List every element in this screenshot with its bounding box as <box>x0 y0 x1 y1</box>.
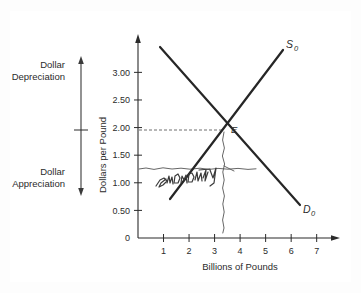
arrow-head-down <box>78 188 84 196</box>
range-marker-axis <box>74 56 88 196</box>
demand-curve-label-group: D 0 <box>303 203 316 218</box>
y-axis-tick-label: 2.50 <box>112 95 130 105</box>
demand-curve-subscript: 0 <box>311 209 316 218</box>
label-dollar-depreciation-line1: Dollar <box>40 59 65 70</box>
equilibrium-point-label: E <box>231 124 238 135</box>
label-dollar-appreciation-line2: Appreciation <box>12 178 65 189</box>
label-dollar-appreciation-line1: Dollar <box>40 166 65 177</box>
x-axis-tick-label: 4 <box>238 246 243 256</box>
y-axis-tick-label: 0.50 <box>112 206 130 216</box>
y-axis-tick-label: 2.00 <box>112 123 130 133</box>
figure-root: Dollar Depreciation Dollar Appreciation … <box>0 0 361 293</box>
x-axis-tick-label: 7 <box>314 246 319 256</box>
x-axis-tick-label: 1 <box>161 246 166 256</box>
x-axis-arrow-head <box>331 235 340 241</box>
label-dollar-depreciation-line2: Depreciation <box>12 71 65 82</box>
y-axis-tick-label: 1.00 <box>112 178 130 188</box>
supply-curve-label: S <box>286 38 293 50</box>
supply-curve-label-group: S 0 <box>286 38 299 53</box>
x-axis-tick-label: 2 <box>187 246 192 256</box>
demand-curve-label: D <box>303 203 311 215</box>
guide-shortage-price <box>139 168 256 170</box>
supply-demand-chart: Dollar Depreciation Dollar Appreciation … <box>0 0 361 293</box>
supply-curve-subscript: 0 <box>294 44 299 53</box>
x-axis-ticks: 1234567 <box>161 234 319 256</box>
guide-lines <box>139 130 256 233</box>
x-axis-tick-label: 5 <box>263 246 268 256</box>
supply-curve <box>170 50 283 199</box>
x-axis-title: Billions of Pounds <box>202 261 278 272</box>
handwritten-shortage-annotation <box>156 168 216 187</box>
y-axis-tick-label: 0 <box>125 233 130 243</box>
guide-equilibrium-quantity <box>222 132 224 233</box>
arrow-head-up <box>78 56 84 64</box>
y-axis-tick-label: 1.50 <box>112 150 130 160</box>
x-axis-tick-label: 3 <box>212 246 217 256</box>
y-axis-title: Dollars per Pound <box>97 117 108 193</box>
y-axis-tick-label: 3.00 <box>112 68 130 78</box>
x-axis-tick-label: 6 <box>289 246 294 256</box>
y-axis-arrow-head <box>135 34 141 43</box>
